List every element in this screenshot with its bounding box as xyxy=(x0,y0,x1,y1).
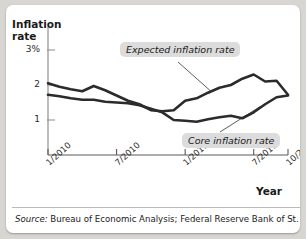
y-tick-label: 2 xyxy=(14,79,40,89)
source-caption: Source: Bureau of Economic Analysis; Fed… xyxy=(15,214,300,224)
series-line-expected-inflation-rate xyxy=(48,75,288,112)
source-text: Bureau of Economic Analysis; Federal Res… xyxy=(48,214,300,224)
y-tick-label: 3% xyxy=(14,44,40,54)
y-axis-title: Inflation rate xyxy=(12,19,62,42)
y-tick-label: 1 xyxy=(14,114,40,124)
x-axis-title: Year xyxy=(256,186,282,198)
chart-figure: Inflation rate Year 123% 1/20107/20101/2… xyxy=(6,5,300,233)
annotation-core-inflation-rate: Core inflation rate xyxy=(182,133,280,148)
series-line-core-inflation-rate xyxy=(48,95,288,122)
source-label: Source: xyxy=(15,214,48,224)
source-divider xyxy=(12,207,300,208)
annotation-expected-inflation-rate: Expected inflation rate xyxy=(120,42,240,57)
x-axis-ticks xyxy=(48,149,288,155)
